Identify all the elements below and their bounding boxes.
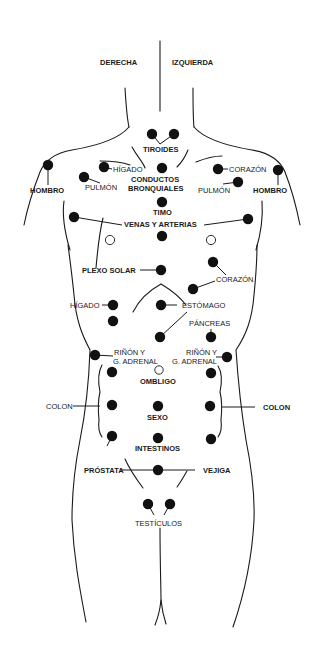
- point-testiculos-left: [165, 499, 175, 509]
- point-corazon-lower-2: [188, 284, 198, 294]
- label-timo: TIMO: [153, 208, 172, 217]
- label-venas-arterias: VENAS Y ARTERIAS: [124, 220, 197, 229]
- point-colon-3: [107, 400, 117, 410]
- label-plexo-solar: PLEXO SOLAR: [82, 266, 136, 275]
- label-tiroides: TIROIDES: [143, 145, 178, 154]
- label-corazon-upper: CORAZÓN: [229, 165, 267, 174]
- label-rinon-left-2: G. ADRENAL: [172, 357, 217, 366]
- label-bronquiales: BRONQUIALES: [128, 184, 183, 193]
- body-reflex-diagram: DERECHA IZQUIERDA: [0, 0, 325, 657]
- label-pulmon-left: PULMÓN: [198, 186, 230, 195]
- point-intestinos-3: [206, 434, 216, 444]
- label-colon-left: COLON: [263, 403, 290, 412]
- point-higado-lower-2: [108, 316, 118, 326]
- point-pancreas-2: [206, 332, 216, 342]
- point-higado-upper: [99, 162, 109, 172]
- label-testiculos: TESTÍCULOS: [135, 519, 182, 528]
- point-intestinos-2: [153, 433, 163, 443]
- label-rinon-left-1: RIÑÓN Y: [186, 348, 217, 357]
- label-colon-right: COLON: [46, 402, 73, 411]
- point-colon-1: [107, 367, 117, 377]
- point-corazon-upper: [213, 164, 223, 174]
- point-sexo: [153, 401, 163, 411]
- point-venas-right: [69, 212, 79, 222]
- label-pulmon-right: PULMÓN: [85, 183, 117, 192]
- label-sexo: SEXO: [147, 413, 168, 422]
- point-prostata-vejiga: [153, 465, 163, 475]
- point-hombro-right: [43, 160, 53, 170]
- point-higado-lower-1: [108, 300, 118, 310]
- label-rinon-right-2: G. ADRENAL: [113, 357, 158, 366]
- hollow-point-ombligo: [155, 366, 163, 374]
- point-pancreas-1: [155, 332, 165, 342]
- point-intestinos-1: [107, 431, 117, 441]
- label-higado-lower: HÍGADO: [70, 301, 100, 310]
- label-rinon-right-1: RIÑÓN Y: [114, 348, 145, 357]
- label-vejiga: VEJIGA: [203, 466, 231, 475]
- label-hombro-right: HOMBRO: [30, 186, 64, 195]
- label-hombro-left: HOMBRO: [253, 186, 287, 195]
- point-venas-left: [243, 214, 253, 224]
- point-testiculos-right: [143, 499, 153, 509]
- point-venas-center: [157, 231, 167, 241]
- point-estomago: [156, 300, 166, 310]
- point-timo: [157, 197, 167, 207]
- point-pulmon-right: [79, 172, 89, 182]
- point-rinon-right: [90, 350, 100, 360]
- point-rinon-left: [222, 352, 232, 362]
- hollow-point-chest-left: [206, 235, 215, 244]
- point-tiroides-left: [169, 129, 179, 139]
- label-pancreas: PÁNCREAS: [189, 319, 230, 328]
- point-pulmon-left: [233, 177, 243, 187]
- point-hombro-left: [273, 165, 283, 175]
- label-conductos: CONDUCTOS: [131, 175, 179, 184]
- label-prostata: PRÓSTATA: [84, 466, 124, 475]
- point-colon-4: [205, 401, 215, 411]
- point-colon-2: [206, 368, 216, 378]
- point-corazon-lower-1: [208, 257, 218, 267]
- hollow-point-chest-right: [105, 235, 114, 244]
- label-corazon-lower: CORAZÓN: [216, 275, 254, 284]
- label-derecha: DERECHA: [100, 58, 138, 67]
- label-estomago: ESTÓMAGO: [182, 301, 226, 310]
- point-tiroides-right: [147, 129, 157, 139]
- label-intestinos: INTESTINOS: [135, 444, 180, 453]
- point-plexo-solar: [156, 265, 166, 275]
- label-higado-upper: HÍGADO: [113, 165, 143, 174]
- label-ombligo: OMBLIGO: [140, 377, 176, 386]
- label-izquierda: IZQUIERDA: [172, 58, 214, 67]
- point-conductos-bronquiales: [157, 163, 167, 173]
